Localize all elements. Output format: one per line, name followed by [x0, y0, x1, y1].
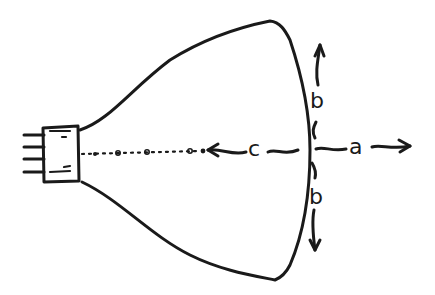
connector-pins	[24, 135, 44, 172]
crt-diagram	[0, 0, 435, 295]
electron-beam	[82, 149, 205, 156]
label-b-top: b	[310, 90, 324, 112]
label-a: a	[349, 136, 362, 158]
label-b-bottom: b	[309, 186, 323, 208]
tube-base	[43, 126, 79, 182]
arrow-a	[316, 140, 410, 152]
label-c: c	[248, 138, 260, 160]
